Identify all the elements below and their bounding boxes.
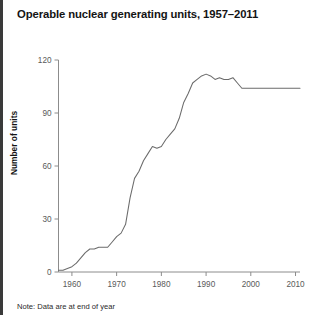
- x-tick-label: 1970: [108, 280, 127, 289]
- y-tick-label: 90: [42, 109, 52, 118]
- axis-group: [59, 60, 301, 272]
- series-line: [59, 74, 301, 270]
- x-tick-label: 2010: [286, 280, 305, 289]
- x-tick-label: 1980: [152, 280, 171, 289]
- y-axis-label: Number of units: [9, 98, 19, 188]
- y-tick-label: 120: [38, 56, 52, 65]
- chart-figure: Operable nuclear generating units, 1957–…: [0, 0, 316, 315]
- chart-note: Note: Data are at end of year: [17, 302, 115, 311]
- x-tick-label: 1990: [197, 280, 216, 289]
- y-tick-label: 30: [42, 215, 52, 224]
- line-chart-plot: 0306090120 196019701980199020002010: [0, 0, 316, 300]
- x-tick-label: 1960: [63, 280, 82, 289]
- x-tick-group: 196019701980199020002010: [63, 272, 305, 289]
- y-tick-group: 0306090120: [38, 56, 59, 277]
- y-tick-label: 0: [47, 268, 52, 277]
- data-series-group: [59, 74, 301, 270]
- y-tick-label: 60: [42, 162, 52, 171]
- x-tick-label: 2000: [242, 280, 261, 289]
